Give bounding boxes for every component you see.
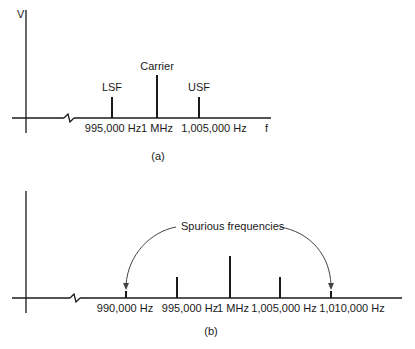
lsf-freq-label: 995,000 Hz [85,123,141,134]
y-axis-label: V [17,9,24,20]
caption-b: (b) [204,326,217,337]
spurious-arrows [126,227,331,285]
freq-label-1010k: 1,010,000 Hz [319,303,384,314]
arrowheads [123,283,334,290]
freq-label-990k: 990,000 Hz [97,303,153,314]
arrowhead-right-icon [328,283,334,290]
spurious-annotation: Spurious frequencies [181,221,284,232]
freq-label-1mhz: 1 MHz [217,303,249,314]
spectrum-diagram [0,0,415,349]
usf-label: USF [188,82,210,93]
arrowhead-left-icon [123,283,129,290]
carrier-label: Carrier [140,61,174,72]
freq-label-1005k: 1,005,000 Hz [251,303,316,314]
usf-freq-label: 1,005,000 Hz [181,123,246,134]
x-axis-label: f [265,123,268,134]
panel-b-spectral-lines [126,256,331,298]
lsf-label: LSF [102,82,122,93]
panel-b-axes [12,191,402,313]
carrier-freq-label: 1 MHz [141,123,173,134]
caption-a: (a) [151,151,164,162]
panel-a-spectral-lines [112,75,199,118]
freq-label-995k: 995,000 Hz [162,303,218,314]
